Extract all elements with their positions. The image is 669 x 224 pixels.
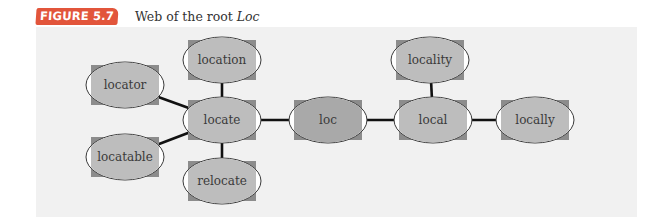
node-label: locator <box>104 78 147 92</box>
nodes: locatorlocationlocatelocatablerelocatelo… <box>86 37 574 204</box>
node-label: locatable <box>97 150 153 164</box>
node-locate: locate <box>183 97 261 143</box>
node-loc: loc <box>289 97 367 143</box>
node-label: loc <box>319 113 337 127</box>
node-locatable: locatable <box>86 134 164 180</box>
node-label: local <box>419 113 448 127</box>
node-local: local <box>394 97 472 143</box>
node-label: location <box>198 53 247 67</box>
node-label: locally <box>515 113 555 127</box>
word-web-diagram: locatorlocationlocatelocatablerelocatelo… <box>0 0 669 224</box>
node-label: locate <box>204 113 241 127</box>
node-locality: locality <box>391 37 469 83</box>
node-locator: locator <box>86 62 164 108</box>
node-location: location <box>183 37 261 83</box>
node-label: locality <box>408 53 452 67</box>
node-locally: locally <box>496 97 574 143</box>
node-label: relocate <box>197 174 247 188</box>
node-relocate: relocate <box>183 158 261 204</box>
